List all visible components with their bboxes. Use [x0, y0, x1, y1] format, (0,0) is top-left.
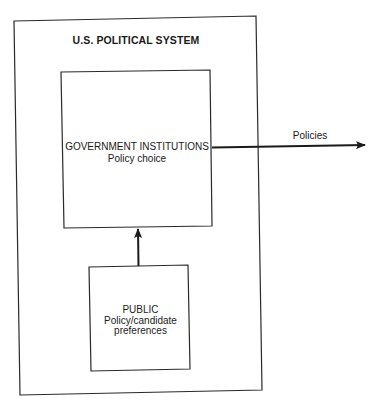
diagram-canvas	[0, 0, 379, 407]
outer-system-box	[14, 16, 262, 395]
policies-arrow-label: Policies	[280, 130, 340, 141]
public-line-3: preferences	[91, 326, 190, 337]
public-label: PUBLIC Policy/candidate preferences	[91, 305, 190, 337]
policy-choice-subtitle: Policy choice	[62, 153, 212, 164]
public-title: PUBLIC	[91, 305, 190, 316]
arrow-policies-output	[212, 145, 365, 148]
arrow-public-to-government	[138, 229, 139, 266]
system-title: U.S. POLITICAL SYSTEM	[14, 35, 258, 47]
government-institutions-label: GOVERNMENT INSTITUTIONS Policy choice	[62, 141, 212, 164]
government-institutions-title: GOVERNMENT INSTITUTIONS	[65, 141, 209, 152]
